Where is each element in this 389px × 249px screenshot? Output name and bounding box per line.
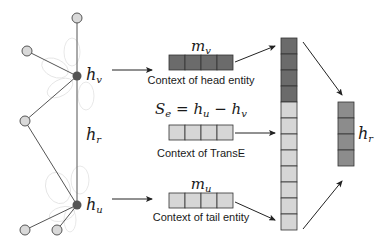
transe-context-cell xyxy=(169,125,185,140)
neighbor-node-top xyxy=(72,13,82,23)
output-relation-label: hr xyxy=(358,124,374,144)
concat-stack xyxy=(281,38,297,230)
head-context-cell xyxy=(217,55,233,70)
neighbor-node-mid-left xyxy=(20,116,30,126)
concat-cell-dark xyxy=(281,38,297,54)
transe-context-cell xyxy=(217,125,233,140)
concat-cell-dark xyxy=(281,86,297,102)
edge-mid-left xyxy=(25,76,77,121)
transe-context-math: Se = hu − hv xyxy=(155,100,247,119)
concat-cell-light xyxy=(281,198,297,214)
transe-context-cell xyxy=(201,125,217,140)
head-entity-node xyxy=(73,72,82,81)
concat-cell-light xyxy=(281,214,297,230)
output-cell xyxy=(338,102,354,118)
edge-upper-left xyxy=(27,51,77,76)
head-context-cell xyxy=(185,55,201,70)
tail-context-cell xyxy=(169,193,185,208)
transe-context-diagram: hv hr hu mv Context of head entity Se = … xyxy=(0,0,389,249)
tail-context-block: mu Context of tail entity xyxy=(153,175,250,223)
head-context-cell xyxy=(201,55,217,70)
tail-context-cell xyxy=(201,193,217,208)
tail-context-caption: Context of tail entity xyxy=(153,211,250,223)
concat-cell-light xyxy=(281,134,297,150)
concat-cell-dark xyxy=(281,54,297,70)
concat-cell-dark xyxy=(281,70,297,86)
output-relation-stack xyxy=(338,102,354,166)
tail-context-cell xyxy=(185,193,201,208)
edge-bottom-left xyxy=(25,205,77,230)
neighbor-node-bottom-mid xyxy=(52,225,62,235)
neighbor-node-bottom-left xyxy=(20,225,30,235)
tail-context-math: mu xyxy=(191,175,212,194)
head-context-cell xyxy=(169,55,185,70)
output-cell xyxy=(338,150,354,166)
head-context-caption: Context of head entity xyxy=(147,74,255,86)
neighbor-node-upper-left xyxy=(22,46,32,56)
transe-context-block: Se = hu − hv Context of TransE xyxy=(155,100,247,159)
concat-cell-light xyxy=(281,182,297,198)
head-context-block: mv Context of head entity xyxy=(147,37,255,86)
concat-cell-light xyxy=(281,118,297,134)
arrow-stack-bottom-to-output xyxy=(303,181,342,229)
relation-label: hr xyxy=(86,125,102,145)
arrow-stack-top-to-output xyxy=(303,42,342,95)
tail-context-cell xyxy=(217,193,233,208)
output-cell xyxy=(338,118,354,134)
concat-cell-light xyxy=(281,150,297,166)
neighbor-nodes xyxy=(20,13,82,235)
transe-context-caption: Context of TransE xyxy=(157,147,245,159)
output-cell xyxy=(338,134,354,150)
head-context-math: mv xyxy=(191,37,211,56)
tail-entity-label: hu xyxy=(86,195,103,215)
tail-entity-node xyxy=(73,201,82,210)
concat-cell-light xyxy=(281,166,297,182)
head-entity-label: hv xyxy=(86,65,102,85)
concat-cell-light xyxy=(281,102,297,118)
transe-context-cell xyxy=(185,125,201,140)
arrow-head-to-stack xyxy=(235,46,275,62)
edge-left-to-hu xyxy=(25,121,77,205)
